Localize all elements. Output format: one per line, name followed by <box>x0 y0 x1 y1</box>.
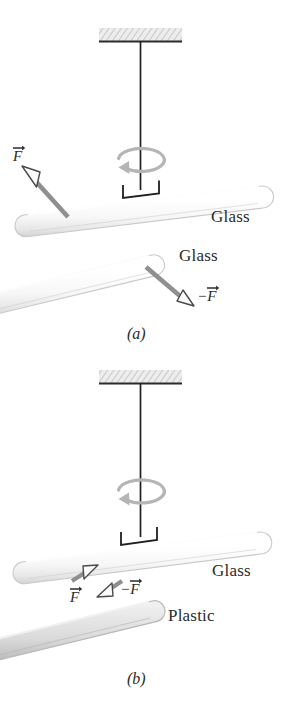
rod-label-glass-b: Glass <box>212 562 251 579</box>
handheld-rod <box>0 601 165 664</box>
force-label-minus-f-a-text: F <box>207 288 216 304</box>
force-label-f-b: F <box>70 589 79 605</box>
force-label-minus-f-b-sign: − <box>120 581 130 597</box>
force-vector-minus-f <box>97 581 122 597</box>
rotation-arrowhead <box>119 161 130 174</box>
force-label-f-b-text: F <box>70 589 79 605</box>
physics-figure: F Glass Glass − F (a) Glass F <box>0 0 290 709</box>
force-label-minus-f-b-text: F <box>130 581 139 597</box>
support-ceiling <box>99 370 182 384</box>
panel-caption-a: (a) <box>127 326 146 342</box>
handheld-rod <box>0 255 165 317</box>
force-label-minus-f-b: − F <box>120 581 139 597</box>
panel-caption-b: (b) <box>127 671 146 687</box>
rod-clamp <box>121 527 157 545</box>
force-label-f-a: F <box>13 148 22 164</box>
support-ceiling <box>99 28 182 42</box>
force-vector-f <box>22 166 68 217</box>
rod-label-glass-a2: Glass <box>179 247 218 264</box>
rotation-arrowhead <box>119 493 130 506</box>
panel-a <box>0 28 274 317</box>
rod-label-glass-a1: Glass <box>211 208 250 225</box>
force-label-minus-f-a: − F <box>197 288 216 304</box>
force-label-f-a-text: F <box>13 148 22 164</box>
force-vector-minus-f <box>146 267 194 306</box>
figure-canvas <box>0 0 290 709</box>
rod-label-plastic-b: Plastic <box>168 607 215 624</box>
force-label-minus-f-a-sign: − <box>197 288 207 304</box>
panel-b <box>0 370 272 664</box>
